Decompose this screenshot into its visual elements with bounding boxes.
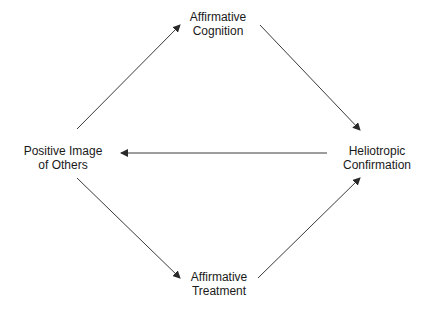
node-heliotropic-confirmation: Heliotropic Confirmation (343, 144, 411, 172)
node-label-line2: of Others (24, 158, 103, 172)
node-affirmative-cognition: Affirmative Cognition (190, 10, 246, 38)
node-affirmative-treatment: Affirmative Treatment (191, 270, 247, 298)
arrow-treatment-to-confirmation (258, 178, 360, 278)
arrow-cognition-to-confirmation (260, 25, 360, 130)
node-label-line1: Affirmative (191, 270, 247, 284)
node-label-line1: Positive Image (24, 144, 103, 158)
node-label-line1: Heliotropic (343, 144, 411, 158)
diagram-canvas: Affirmative Cognition Positive Image of … (0, 0, 435, 309)
node-positive-image-of-others: Positive Image of Others (24, 144, 103, 172)
arrow-positive-image-to-cognition (77, 25, 180, 129)
node-label-line1: Affirmative (190, 10, 246, 24)
arrow-positive-image-to-treatment (77, 178, 180, 278)
node-label-line2: Confirmation (343, 158, 411, 172)
node-label-line2: Cognition (190, 24, 246, 38)
node-label-line2: Treatment (191, 284, 247, 298)
